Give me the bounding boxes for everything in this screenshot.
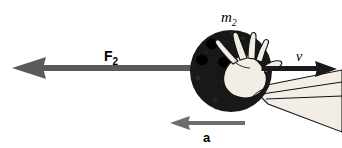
diagram-canvas — [0, 0, 342, 148]
ball-hole-2 — [196, 55, 208, 66]
velocity-vector-shaft — [262, 66, 320, 71]
mass-label-subscript: 2 — [232, 17, 237, 28]
physics-diagram-figure: m2 F2 v a — [0, 0, 342, 148]
figure-background — [0, 0, 342, 148]
velocity-label: v — [296, 50, 302, 64]
mass-label-symbol: m — [221, 9, 232, 25]
force-label-symbol: F — [104, 48, 113, 64]
mass-label: m2 — [221, 10, 237, 28]
acceleration-label: a — [203, 131, 210, 144]
force-label-subscript: 2 — [113, 56, 119, 67]
acceleration-vector-shaft — [186, 121, 245, 125]
force-vector-shaft — [40, 65, 202, 71]
force-label: F2 — [104, 49, 118, 67]
